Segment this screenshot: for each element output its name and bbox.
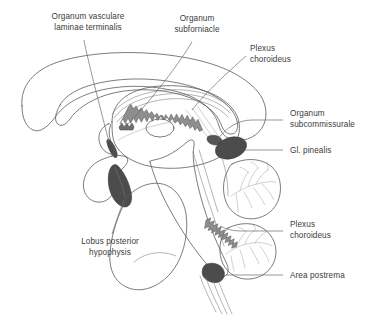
label-area-postrema: Area postrema <box>290 271 345 280</box>
anatomical-figure-circumventricular-organs: Organum vasculare laminae terminalis Org… <box>0 0 378 321</box>
posterior-pituitary-shape <box>108 165 131 208</box>
brainstem-shape <box>150 140 228 277</box>
cerebellum-upper-shape <box>224 160 281 219</box>
label-layer: Organum vasculare laminae terminalis Org… <box>52 12 356 280</box>
label-organum-vasculare-line2: laminae terminalis <box>54 23 121 32</box>
brainstem-group <box>150 140 228 277</box>
leader-organum-subcommissurale <box>218 120 283 139</box>
area-postrema-organ <box>202 263 224 282</box>
label-plexus-choroideus-lower-line1: Plexus <box>290 220 315 229</box>
label-organum-subcommissurale-line1: Organum <box>290 109 325 118</box>
organum-subfornicale-marker <box>119 123 134 130</box>
choroid-plexus-fourth-sawtooth <box>205 218 238 248</box>
label-organum-subcommissurale-line2: subcommissurale <box>290 120 355 129</box>
cerebellum-upper <box>224 160 281 219</box>
label-organum-subfornicale-line2: subforniacle <box>174 25 219 34</box>
label-plexus-choroideus-upper-line1: Plexus <box>250 44 275 53</box>
arbor-vitae-upper <box>231 162 276 212</box>
label-organum-subfornicale-line1: Organum <box>180 14 215 23</box>
choroid-plexus-fourth-ventricle <box>205 218 238 248</box>
label-lobus-posterior-hypophysis-line1: Lobus posterior <box>81 237 139 246</box>
leader-plexus-choroideus-lower <box>220 226 283 231</box>
interthalamic-adhesion-oval <box>146 119 174 137</box>
label-organum-vasculare-line1: Organum vasculare <box>52 12 125 21</box>
label-gl-pinealis: Gl. pinealis <box>290 146 332 155</box>
label-plexus-choroideus-lower-line2: choroideus <box>290 231 331 240</box>
leader-lobus-posterior-hypophysis <box>112 200 124 234</box>
label-plexus-choroideus-upper-line2: choroideus <box>250 55 291 64</box>
label-lobus-posterior-hypophysis-line2: hypophysis <box>89 248 131 257</box>
area-postrema-shape <box>202 263 224 282</box>
